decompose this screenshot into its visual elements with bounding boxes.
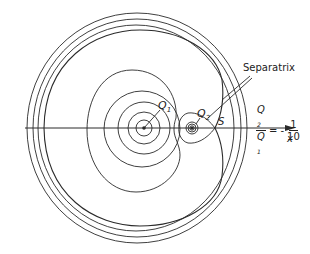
q1-point [142,126,146,130]
equipotential-cardioid [87,70,180,192]
q2-label: Q2 [197,108,210,122]
separatrix-leader-2 [208,78,252,118]
q1-label: Q1 [158,100,171,114]
charge-ratio: Q2 Q1 = - 1 10 [256,104,300,157]
q2-point [190,126,193,129]
saddle-point-label: S [218,117,224,127]
separatrix-label: Separatrix [243,62,295,73]
